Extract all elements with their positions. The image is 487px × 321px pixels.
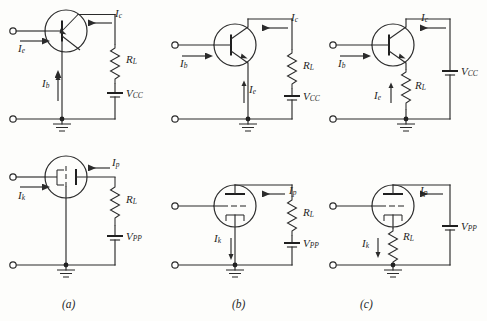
- label-Ik-a-bot: Ik: [18, 190, 25, 202]
- ground-symbol-b-top: [239, 119, 257, 131]
- label-Ip-a-bot: Ip: [112, 157, 119, 169]
- label-Ib-c-top: Ib: [338, 58, 345, 70]
- panel-c-bottom-circuit: [330, 185, 458, 277]
- output-terminal-b-bot: [172, 262, 178, 268]
- label-RL-c-bot: RL: [403, 231, 414, 243]
- input-terminal-a-bot: [10, 174, 16, 180]
- label-VCC-b-top: VCC: [303, 91, 320, 103]
- label-RL-c-top: RL: [415, 80, 426, 92]
- caption-a: (a): [62, 299, 75, 311]
- input-terminal-a-top: [10, 28, 16, 34]
- panel-c-top-circuit: [330, 19, 458, 131]
- label-VCC-c-top: VCC: [461, 66, 478, 78]
- label-Ip-b-bot: Ip: [289, 185, 296, 197]
- resistor-RL-b-bot: [288, 196, 297, 236]
- panel-a-top-circuit: [10, 10, 123, 131]
- emitter-arrow-c: [399, 54, 406, 59]
- label-RL-a-top: RL: [126, 54, 137, 66]
- label-RL-b-top: RL: [303, 60, 314, 72]
- panel-b-bottom-circuit: [172, 185, 300, 277]
- label-Ic-c-top: Ic: [421, 12, 428, 24]
- panel-a-bottom-circuit: [10, 156, 123, 277]
- output-terminal-c-top: [330, 116, 336, 122]
- input-terminal-b-top: [172, 42, 178, 48]
- circuit-schematic-canvas: [0, 0, 487, 321]
- circuit-figure: Ie Ic Ib RL VCC Ib Ic Ie RL VCC Ib Ic Ie…: [0, 0, 487, 321]
- label-RL-b-bot: RL: [303, 207, 314, 219]
- resistor-RL-c-bot: [389, 228, 398, 265]
- input-terminal-b-bot: [172, 203, 178, 209]
- label-Ic-b-top: Ic: [291, 12, 298, 24]
- resistor-RL-a-top: [111, 44, 120, 84]
- label-VPP-a-bot: VPP: [126, 231, 142, 243]
- ground-symbol-c-top: [397, 119, 415, 131]
- ground-symbol-a-bot: [57, 265, 75, 277]
- output-terminal-b-top: [172, 116, 178, 122]
- label-Ic-a-top: Ic: [115, 8, 122, 20]
- label-Ie-a-top: Ie: [18, 43, 25, 55]
- tube-cathode-a: [57, 170, 64, 185]
- label-Ib-b-top: Ib: [180, 58, 187, 70]
- caption-b: (b): [232, 299, 245, 311]
- label-Ik-c-bot: Ik: [362, 238, 369, 250]
- label-RL-a-bot: RL: [126, 194, 137, 206]
- ground-symbol-c-bot: [384, 265, 402, 277]
- resistor-RL-a-bot: [111, 177, 120, 226]
- output-terminal-c-bot: [330, 262, 336, 268]
- resistor-RL-b-top: [288, 49, 297, 89]
- panel-b-top-circuit: [172, 19, 300, 131]
- caption-c: (c): [360, 299, 373, 311]
- label-VPP-c-bot: VPP: [461, 221, 477, 233]
- ground-symbol-b-bot: [226, 265, 244, 277]
- label-VPP-b-bot: VPP: [303, 238, 319, 250]
- output-terminal-a-bot: [10, 262, 16, 268]
- label-VCC-a-top: VCC: [126, 88, 143, 100]
- label-Ik-b-bot: Ik: [214, 233, 221, 245]
- ground-symbol-a-top: [53, 119, 71, 131]
- input-terminal-c-top: [330, 42, 336, 48]
- label-Ie-c-top: Ie: [374, 90, 381, 102]
- label-Ip-c-bot: Ip: [420, 185, 427, 197]
- label-Ie-b-top: Ie: [249, 84, 256, 96]
- label-Ib-a-top: Ib: [42, 78, 49, 90]
- input-terminal-c-bot: [330, 203, 336, 209]
- resistor-RL-c-top: [402, 69, 411, 110]
- emitter-arrow-b: [241, 54, 248, 59]
- output-terminal-a-top: [10, 116, 16, 122]
